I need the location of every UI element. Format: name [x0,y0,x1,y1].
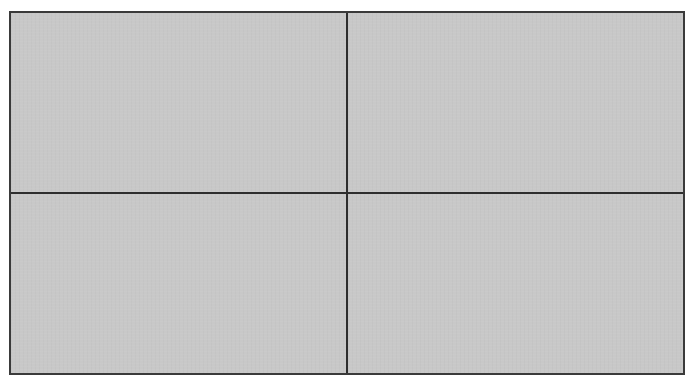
pane-bottom-left[interactable] [11,194,346,373]
pane-top-left[interactable] [11,13,346,192]
grid-frame [9,11,685,375]
pane-top-right[interactable] [348,13,683,192]
pane-bottom-right[interactable] [348,194,683,373]
